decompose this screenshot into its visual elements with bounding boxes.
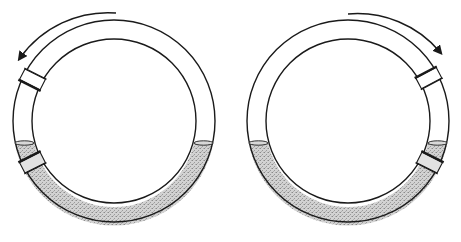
left-inner-wall [32, 39, 196, 203]
right-liquid [249, 143, 448, 226]
left-ring [13, 13, 215, 226]
left-liquid [15, 143, 214, 226]
clockwise-arrow-icon [348, 14, 440, 52]
right-ring [247, 14, 449, 226]
right-surface-left [249, 141, 268, 145]
right-surface-right [428, 141, 447, 145]
diagram-canvas [0, 0, 461, 242]
right-inner-wall [266, 39, 430, 203]
left-plug-upper [18, 68, 46, 91]
left-surface-right [194, 141, 213, 145]
counterclockwise-arrow-icon [20, 13, 116, 58]
figure [0, 0, 461, 242]
right-plug-upper [415, 66, 443, 89]
left-surface-left [15, 141, 34, 145]
